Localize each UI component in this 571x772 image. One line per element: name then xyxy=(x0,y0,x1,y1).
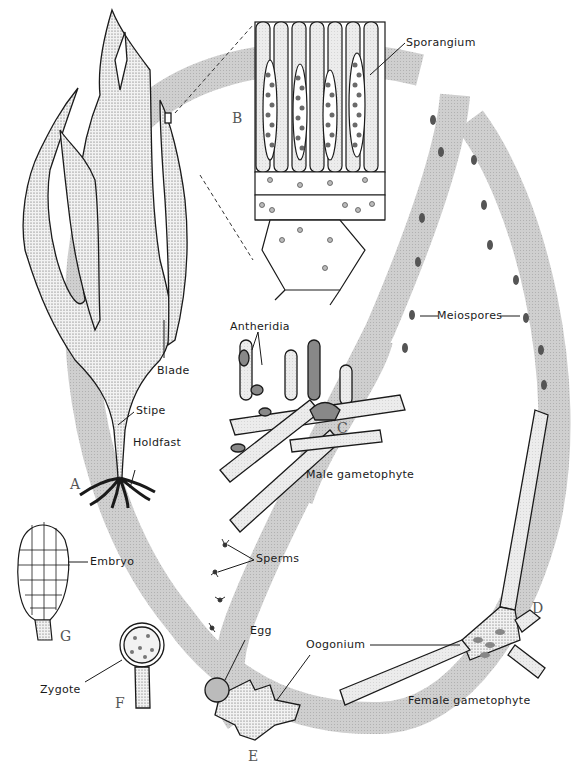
stage-letter-e: E xyxy=(248,748,258,764)
label-blade: Blade xyxy=(157,364,190,377)
label-holdfast: Holdfast xyxy=(133,436,181,449)
label-sperms: Sperms xyxy=(256,552,299,565)
stage-letter-g: G xyxy=(60,628,71,644)
label-egg: Egg xyxy=(250,624,272,637)
embryo xyxy=(18,522,70,640)
antheridia-leader-a xyxy=(252,332,258,350)
label-stipe: Stipe xyxy=(136,404,166,417)
label-zygote: Zygote xyxy=(40,683,81,696)
label-meiospores: Meiospores xyxy=(437,309,502,322)
label-oogonium: Oogonium xyxy=(306,638,365,651)
stage-letter-c: C xyxy=(337,420,348,436)
stage-letter-d: D xyxy=(532,600,543,616)
label-female-gametophyte: Female gametophyte xyxy=(408,694,530,707)
label-male-gametophyte: Male gametophyte xyxy=(306,468,414,481)
holdfast-leader xyxy=(130,470,135,488)
stage-letter-a: A xyxy=(70,476,80,492)
label-sporangium: Sporangium xyxy=(406,36,476,49)
antheridia-leader-b xyxy=(258,332,262,365)
kelp-life-cycle-diagram xyxy=(0,0,571,772)
label-antheridia: Antheridia xyxy=(230,320,290,333)
sperms-leader-a xyxy=(228,545,254,560)
stage-letter-f: F xyxy=(115,695,125,711)
sporangium-section xyxy=(255,22,385,305)
label-embryo: Embryo xyxy=(90,555,134,568)
stage-letter-b: B xyxy=(232,110,242,126)
female-gametophyte xyxy=(340,410,548,705)
zygote-leader xyxy=(85,660,122,682)
zygote xyxy=(120,623,164,708)
